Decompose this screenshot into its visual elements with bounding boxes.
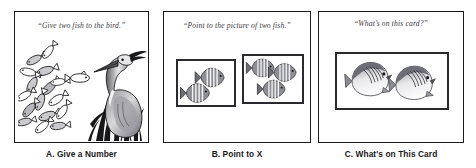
caption-panel-c: C. What's on This Card (318, 149, 464, 159)
panel-c-card-two-butterflyfish[interactable] (335, 52, 449, 110)
three-fish-illustration (244, 56, 302, 102)
striped-fish (257, 80, 285, 98)
panel-b-point-to-x: “Point to the picture of two fish.” (163, 11, 311, 143)
two-fish-illustration (178, 61, 234, 105)
butterflyfish (388, 66, 435, 99)
fish-school-group (18, 40, 72, 135)
panel-b-right-card-three-fish[interactable] (242, 54, 304, 104)
caption-panel-b: B. Point to X (163, 149, 311, 159)
panel-a-prompt: “Give two fish to the bird.” (15, 21, 148, 30)
caption-panel-a: A. Give a Number (14, 149, 149, 159)
butterflyfish-illustration (337, 54, 447, 108)
panel-b-prompt: “Point to the picture of two fish.” (164, 21, 310, 30)
panel-a-give-a-number: “Give two fish to the bird.” (14, 11, 149, 143)
butterflyfish (345, 62, 392, 95)
striped-fish (180, 84, 209, 103)
panel-b-left-card-two-fish[interactable] (176, 59, 236, 107)
figure-three-assessment-panels: “Give two fish to the bird.” (0, 0, 476, 168)
panel-c-whats-on-this-card: “What’s on this card?” (318, 11, 464, 143)
panel-c-prompt: “What’s on this card?” (319, 19, 463, 28)
heron-and-fish-school-illustration (18, 38, 147, 141)
